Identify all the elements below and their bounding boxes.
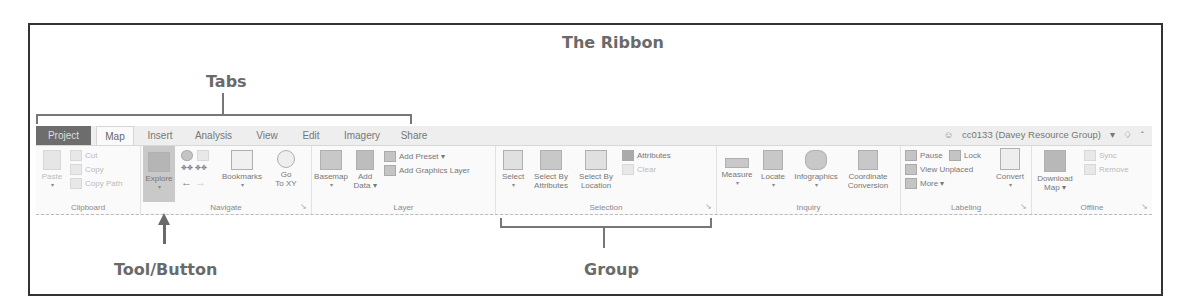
select-by-location-button[interactable]: Select By Location: [576, 150, 616, 190]
group-labeling: Pause Lock View Unplaced More ▾ Convert …: [901, 146, 1032, 214]
group-label-layer: Layer: [312, 203, 495, 212]
bookmark-icon: [231, 150, 253, 170]
add-data-button[interactable]: Add Data ▾: [352, 150, 378, 190]
chevron-down-icon: ▾: [143, 183, 175, 192]
user-account-button[interactable]: cc0133 (Davey Resource Group): [962, 129, 1101, 140]
select-by-location-icon: [585, 150, 607, 170]
scissors-icon: [70, 150, 82, 161]
chevron-down-icon: ▾: [719, 179, 755, 188]
binoculars-icon: [763, 150, 783, 170]
add-preset-button[interactable]: Add Preset ▾: [384, 151, 445, 162]
group-bracket: [500, 218, 712, 228]
tab-share[interactable]: Share: [392, 128, 436, 144]
user-dropdown-icon[interactable]: ▾: [1110, 129, 1115, 140]
sync-button[interactable]: Sync: [1084, 150, 1117, 161]
group-label-navigate: Navigate: [141, 203, 311, 212]
group-clipboard: Paste ▾ Cut Copy Copy Path Clipboard: [36, 146, 141, 214]
select-button[interactable]: Select ▾: [500, 150, 526, 190]
pencil-icon: [905, 178, 917, 189]
chevron-down-icon: ▾: [791, 181, 841, 190]
remove-button[interactable]: Remove: [1084, 164, 1129, 175]
explore-button[interactable]: Explore ▾: [143, 146, 175, 202]
copy-path-button[interactable]: Copy Path: [70, 178, 122, 189]
clear-selection-icon: [622, 164, 634, 175]
ribbon-tab-row: Project Map Insert Analysis View Edit Im…: [36, 126, 1152, 146]
user-area: ☺ cc0133 (Davey Resource Group) ▾ ♢ ˆ: [938, 129, 1144, 140]
attributes-button[interactable]: Attributes: [622, 150, 671, 161]
measure-button[interactable]: Measure ▾: [719, 150, 755, 188]
lock-labeling-button[interactable]: Lock: [949, 150, 981, 161]
select-by-attributes-button[interactable]: Select By Attributes: [530, 150, 572, 190]
coordinate-conversion-button[interactable]: Coordinate Conversion: [843, 150, 893, 190]
group-inquiry: Measure ▾ Locate ▾ Infographics ▾ Coordi…: [717, 146, 901, 214]
figure-title: The Ribbon: [562, 33, 664, 52]
ribbon: Project Map Insert Analysis View Edit Im…: [36, 126, 1152, 215]
chevron-down-icon: ▾: [219, 181, 265, 190]
copy-path-icon: [70, 178, 82, 189]
basemap-icon: [320, 150, 342, 170]
tabs-bracket: [36, 114, 412, 124]
tool-button-arrow-shaft: [163, 224, 166, 244]
group-layer: Basemap ▾ Add Data ▾ Add Preset ▾ Add Gr…: [312, 146, 496, 214]
zoom-settings-icon: [197, 150, 209, 161]
full-extent-button[interactable]: [181, 150, 196, 161]
basemap-button[interactable]: Basemap ▾: [314, 150, 348, 190]
convert-labels-icon: [1000, 148, 1020, 170]
cut-button[interactable]: Cut: [70, 150, 97, 161]
view-unplaced-button[interactable]: View Unplaced: [905, 164, 973, 175]
paste-button[interactable]: Paste ▾: [40, 150, 64, 190]
infographics-icon: [805, 150, 827, 170]
group-selection: Select ▾ Select By Attributes Select By …: [496, 146, 717, 214]
chevron-down-icon: ▾: [757, 181, 789, 190]
download-map-icon: [1044, 150, 1066, 172]
fixed-zoom-button[interactable]: [197, 150, 212, 161]
copy-button[interactable]: Copy: [70, 164, 104, 175]
selection-launcher-icon[interactable]: ↘: [705, 202, 712, 211]
fixed-zoom-in-button[interactable]: ✥✥ ✥✥: [181, 163, 207, 173]
locate-button[interactable]: Locate ▾: [757, 150, 789, 190]
clear-button[interactable]: Clear: [622, 164, 656, 175]
view-unplaced-icon: [905, 164, 917, 175]
user-icon: ☺: [944, 129, 954, 140]
globe-icon: [181, 150, 193, 161]
table-icon: [622, 150, 634, 161]
previous-extent-button[interactable]: ← →: [181, 177, 206, 187]
tab-edit[interactable]: Edit: [292, 128, 330, 144]
go-to-xy-button[interactable]: Go To XY: [271, 150, 301, 188]
bookmarks-button[interactable]: Bookmarks ▾: [219, 150, 265, 190]
group-label-offline: Offline: [1032, 203, 1152, 212]
crosshair-icon: [277, 150, 295, 168]
tabs-annotation: Tabs: [206, 72, 247, 91]
group-annotation: Group: [584, 260, 639, 279]
pause-labeling-button[interactable]: Pause: [905, 150, 943, 161]
chevron-down-icon: ▾: [500, 181, 526, 190]
select-icon: [503, 150, 523, 170]
group-label-labeling: Labeling: [901, 203, 1031, 212]
chevron-down-icon: ▾: [993, 181, 1027, 190]
tab-map[interactable]: Map: [96, 126, 134, 145]
chevron-up-icon[interactable]: ˆ: [1141, 129, 1144, 140]
tab-view[interactable]: View: [246, 128, 288, 144]
tab-project[interactable]: Project: [36, 126, 91, 145]
offline-launcher-icon[interactable]: ↘: [1141, 202, 1148, 211]
download-map-button[interactable]: Download Map ▾: [1034, 150, 1076, 192]
tab-analysis[interactable]: Analysis: [186, 128, 241, 144]
tab-insert[interactable]: Insert: [139, 128, 181, 144]
ribbon-body: Paste ▾ Cut Copy Copy Path Clipboard Exp…: [36, 146, 1152, 214]
infographics-button[interactable]: Infographics ▾: [791, 150, 841, 190]
pause-labels-icon: [905, 150, 917, 161]
add-preset-icon: [384, 151, 396, 162]
add-data-icon: [356, 150, 374, 170]
add-graphics-layer-button[interactable]: Add Graphics Layer: [384, 165, 470, 176]
group-label-selection: Selection: [496, 203, 716, 212]
labeling-launcher-icon[interactable]: ↘: [1020, 202, 1027, 211]
navigate-launcher-icon[interactable]: ↘: [300, 202, 307, 211]
paste-icon: [43, 150, 61, 170]
convert-button[interactable]: Convert ▾: [993, 148, 1027, 190]
bell-icon[interactable]: ♢: [1123, 129, 1132, 140]
graphics-layer-icon: [384, 165, 396, 176]
tab-imagery[interactable]: Imagery: [336, 128, 388, 144]
explore-icon: [148, 152, 170, 172]
more-labeling-button[interactable]: More ▾: [905, 178, 944, 189]
sync-icon: [1084, 150, 1096, 161]
